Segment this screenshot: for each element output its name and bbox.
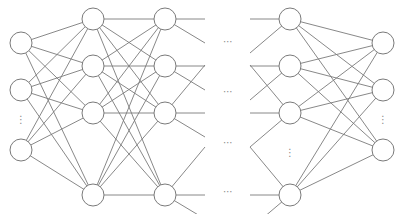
hidden-layer-2-node-4 <box>154 184 176 206</box>
hidden-layer-n-node-1 <box>279 8 301 30</box>
network-svg: ⋮⋮⋮⋯⋯⋯⋯ <box>0 0 404 214</box>
horizontal-ellipsis-4: ⋯ <box>223 186 233 197</box>
output-layer-vertical-ellipsis: ⋮ <box>378 114 388 125</box>
horizontal-ellipsis-2: ⋯ <box>223 86 233 97</box>
hidden-layer-n-vertical-ellipsis: ⋮ <box>285 147 295 158</box>
hidden-layer-1-node-2 <box>82 55 104 77</box>
output-layer-node-2 <box>372 79 394 101</box>
input-layer-vertical-ellipsis: ⋮ <box>16 114 26 125</box>
output-layer-node-1 <box>372 32 394 54</box>
hidden-layer-1-node-3 <box>82 102 104 124</box>
hidden-layer-n-node-2 <box>279 55 301 77</box>
hidden-layer-2-node-2 <box>154 55 176 77</box>
input-layer-node-2 <box>10 79 32 101</box>
hidden-layer-1-node-1 <box>82 8 104 30</box>
input-layer-node-1 <box>10 32 32 54</box>
nodes <box>10 8 394 206</box>
edge <box>290 90 383 195</box>
horizontal-ellipsis-3: ⋯ <box>223 137 233 148</box>
hidden-layer-2-node-1 <box>154 8 176 30</box>
horizontal-ellipsis-1: ⋯ <box>223 36 233 47</box>
edge <box>290 43 383 66</box>
edge <box>21 19 93 150</box>
ellipses: ⋮⋮⋮⋯⋯⋯⋯ <box>16 36 388 197</box>
neural-network-diagram: ⋮⋮⋮⋯⋯⋯⋯ <box>0 0 404 214</box>
hidden-layer-n-node-3 <box>279 102 301 124</box>
edge <box>290 19 383 150</box>
edge <box>290 66 383 150</box>
hidden-layer-n-node-4 <box>279 184 301 206</box>
edge <box>290 90 383 113</box>
input-layer-node-3 <box>10 139 32 161</box>
edge <box>21 90 93 195</box>
edges <box>21 19 383 214</box>
hidden-layer-1-node-4 <box>82 184 104 206</box>
output-layer-node-3 <box>372 139 394 161</box>
edge <box>21 19 93 90</box>
hidden-layer-2-node-3 <box>154 102 176 124</box>
